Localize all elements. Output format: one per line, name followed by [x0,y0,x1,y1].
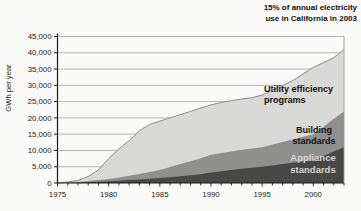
y-tick-label: 5,000 [32,162,52,171]
utility-label-line2: programs [264,95,333,106]
appliance-label-line1: Appliance [282,152,344,164]
x-tick-label: 2000 [305,190,323,199]
y-tick-label: 40,000 [28,48,53,57]
y-axis-label: GWh per year [4,64,13,112]
x-tick-label: 1985 [151,190,169,199]
y-tick-label: 30,000 [28,81,53,90]
series-label-utility-efficiency-programs: Utility efficiency programs [264,84,333,106]
annotation-line2: use in California in 2003 [264,14,357,25]
series-label-appliance-standards: Appliance standards [282,152,344,176]
annotation-line1: 15% of annual electricity [264,3,357,14]
y-tick-label: 15,000 [28,130,53,139]
x-tick-label: 1995 [253,190,271,199]
x-tick-label: 1990 [202,190,220,199]
appliance-label-line2: standards [282,164,344,176]
y-tick-label: 20,000 [28,114,53,123]
x-tick-label: 1980 [100,190,118,199]
chart-figure: 05,00010,00015,00020,00025,00030,00035,0… [0,0,361,211]
y-tick-label: 45,000 [28,32,53,41]
building-label-line2: standards [286,136,342,147]
y-tick-label: 35,000 [28,65,53,74]
series-label-building-standards: Building standards [286,125,342,146]
building-label-line1: Building [286,125,342,136]
chart-annotation: 15% of annual electricity use in Califor… [264,3,357,24]
utility-label-line1: Utility efficiency [264,84,333,95]
y-tick-label: 10,000 [28,146,53,155]
x-tick-label: 1975 [49,190,67,199]
y-tick-label: 25,000 [28,97,53,106]
y-tick-label: 0 [47,179,52,188]
